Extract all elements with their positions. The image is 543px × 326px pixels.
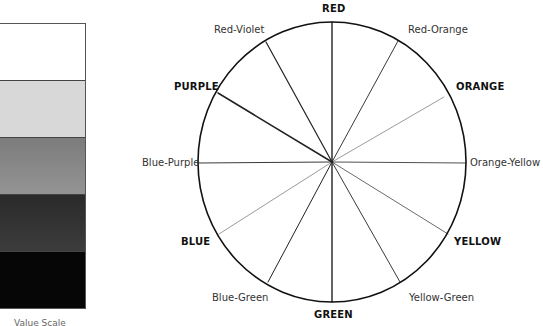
label-orange-yellow: Orange-Yellow: [470, 157, 540, 169]
spoke-purple: [218, 93, 332, 162]
label-purple: PURPLE: [174, 81, 219, 93]
spoke-orange-yellow: [332, 162, 466, 163]
label-orange: ORANGE: [456, 81, 505, 93]
spoke-yellow-green: [332, 162, 400, 282]
label-red: RED: [322, 3, 345, 15]
label-green: GREEN: [314, 309, 353, 321]
label-red-orange: Red-Orange: [408, 24, 468, 36]
label-yellow: YELLOW: [454, 236, 501, 248]
label-blue-purple: Blue-Purple: [142, 157, 199, 169]
label-blue: BLUE: [181, 236, 210, 248]
spoke-orange: [332, 97, 444, 162]
spoke-red-violet: [266, 42, 332, 162]
spoke-blue: [219, 162, 332, 234]
spoke-red-orange: [332, 41, 398, 162]
label-blue-green: Blue-Green: [212, 292, 268, 304]
label-red-violet: Red-Violet: [214, 24, 264, 36]
spoke-blue-green: [268, 162, 332, 282]
spoke-yellow: [332, 162, 448, 234]
spoke-blue-purple: [198, 162, 332, 163]
color-wheel: [0, 0, 543, 326]
label-yellow-green: Yellow-Green: [409, 292, 474, 304]
